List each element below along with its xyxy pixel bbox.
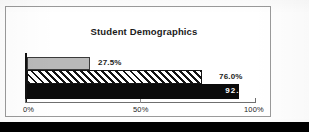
axis-label-50: 50%: [133, 105, 149, 114]
scanned-chart-page: Student Demographics 27.5% 76.0% 92.3% 0…: [0, 0, 309, 132]
bar-series-2: [27, 70, 202, 84]
bar-series-1: [27, 57, 90, 70]
chart-title: Student Demographics: [11, 26, 277, 37]
axis-label-100: 100%: [244, 105, 264, 114]
bottom-black-band: [0, 122, 309, 132]
chart-frame: Student Demographics 27.5% 76.0% 92.3% 0…: [5, 6, 271, 117]
axis-label-0: 0%: [23, 105, 34, 114]
axis-tick-0: [25, 99, 26, 103]
axis-tick-50: [140, 99, 141, 103]
data-label-series-2: 76.0%: [219, 72, 243, 81]
axis-tick-100: [255, 98, 256, 103]
data-label-series-1: 27.5%: [98, 58, 122, 67]
data-label-series-3: 92.3%: [6, 86, 253, 95]
